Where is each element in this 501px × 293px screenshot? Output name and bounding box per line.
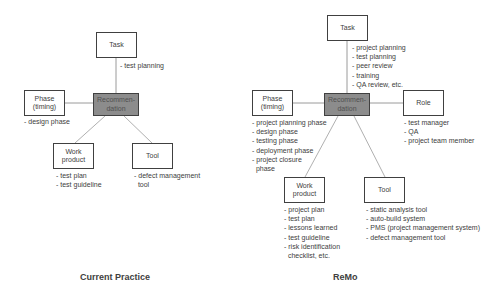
current-tool-list: - defect management tool xyxy=(134,171,200,189)
current-phase-box: Phase (timing) xyxy=(24,90,65,116)
current-task-box: Task xyxy=(96,32,137,58)
remo-task-box: Task xyxy=(327,15,368,41)
remo-tool-list: - static analysis tool - auto-build syst… xyxy=(366,205,480,242)
remo-role-box: Role xyxy=(403,90,444,116)
remo-caption: ReMo xyxy=(333,272,358,282)
current-work-product-list: - test plan - test guideline xyxy=(56,171,102,189)
remo-work-product-box: Work product xyxy=(284,177,325,203)
remo-tool-box: Tool xyxy=(364,177,405,203)
current-phase-list: - design phase xyxy=(24,117,70,126)
remo-task-list: - project planning - test planning - pee… xyxy=(352,43,406,89)
current-task-list: - test planning xyxy=(120,61,164,70)
current-work-product-box: Work product xyxy=(53,143,94,169)
remo-work-product-list: - project plan - test plan - lessons lea… xyxy=(284,205,340,260)
remo-recommendation-box: Recommen- dation xyxy=(324,93,370,116)
remo-phase-list: - project planning phase - design phase … xyxy=(252,118,327,173)
remo-role-list: - test manager - QA - project team membe… xyxy=(404,118,474,146)
current-tool-box: Tool xyxy=(132,143,173,169)
current-practice-caption: Current Practice xyxy=(80,272,150,282)
remo-phase-box: Phase (timing) xyxy=(252,90,293,116)
current-recommendation-box: Recommen- dation xyxy=(93,93,139,116)
